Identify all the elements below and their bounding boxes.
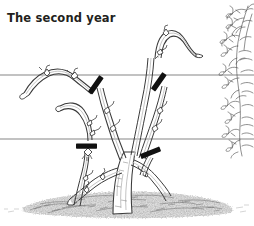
foliage-cluster-2 <box>222 27 252 66</box>
bud-nodes-right-upright <box>152 107 163 132</box>
pruning-mark-lower-left <box>76 144 97 149</box>
cane-upper-right-arch <box>155 25 203 59</box>
foliage-cluster-3 <box>223 58 253 98</box>
bud-nodes-upper-right <box>157 29 169 55</box>
figure-canvas: The second year <box>0 0 254 226</box>
cane-mid-left-arch <box>56 103 101 141</box>
foliage-cluster-4 <box>225 96 253 120</box>
main-trunk <box>113 152 135 214</box>
illustration-svg <box>0 0 254 226</box>
trellis-wires <box>0 75 254 139</box>
foliage-sprigs <box>219 4 254 158</box>
cane-center-left-upright <box>97 88 126 160</box>
cane-upper-left-arch <box>20 65 93 99</box>
figure-title: The second year <box>7 11 116 25</box>
